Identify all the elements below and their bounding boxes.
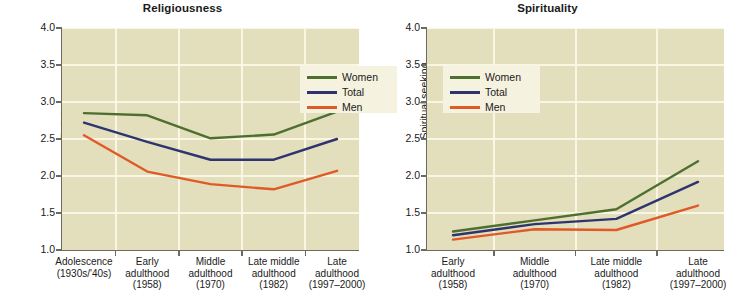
y-axis-tick xyxy=(421,175,427,176)
series-lines xyxy=(62,28,359,250)
y-axis-tick xyxy=(56,175,62,176)
y-axis-tick-label: 2.5 xyxy=(389,132,420,144)
legend-label-total: Total xyxy=(485,87,507,98)
legend-swatch-men xyxy=(450,106,480,109)
legend-item-men: Men xyxy=(450,102,505,113)
y-axis-tick-label: 1.0 xyxy=(389,243,420,255)
legend-item-women: Women xyxy=(450,72,521,83)
y-axis-tick xyxy=(56,64,62,65)
figure-two-panel-line-charts: Religiousness Religiousness 1.01.52.02.5… xyxy=(0,0,730,293)
y-axis-tick-label: 1.5 xyxy=(24,206,55,218)
y-axis-tick-label: 3.5 xyxy=(24,58,55,70)
legend-label-women: Women xyxy=(485,72,521,83)
y-axis-tick xyxy=(56,249,62,250)
legend-swatch-men xyxy=(307,106,337,109)
x-axis-tick-label-line: adulthood xyxy=(643,268,730,280)
y-axis-tick-label: 1.5 xyxy=(389,206,420,218)
legend-label-men: Men xyxy=(485,102,505,113)
y-axis-tick-label: 4.0 xyxy=(389,21,420,33)
chart-title-spirituality: Spirituality xyxy=(365,2,730,14)
y-axis-tick xyxy=(56,138,62,139)
y-axis-tick-label: 1.0 xyxy=(24,243,55,255)
y-axis-tick xyxy=(56,212,62,213)
y-axis-tick-label: 2.5 xyxy=(24,132,55,144)
chart-legend: WomenTotalMen xyxy=(443,66,540,113)
chart-panel-religiousness: Religiousness Religiousness 1.01.52.02.5… xyxy=(0,0,365,293)
plot-area-religiousness xyxy=(62,28,359,250)
plot-area-spirituality xyxy=(427,28,724,250)
x-axis-tick-label: Lateadulthood(1997–2000) xyxy=(643,256,730,291)
x-axis-tick-label-line: (1997–2000) xyxy=(643,279,730,291)
y-axis-tick xyxy=(56,101,62,102)
y-axis-tick-label: 4.0 xyxy=(24,21,55,33)
y-axis-tick xyxy=(421,138,427,139)
y-axis-tick-label: 3.0 xyxy=(389,95,420,107)
legend-swatch-total xyxy=(450,91,480,94)
chart-panel-spirituality: Spirituality Spiritual seeking 1.01.52.0… xyxy=(365,0,730,293)
legend-swatch-total xyxy=(307,91,337,94)
y-axis-tick xyxy=(421,27,427,28)
y-axis-tick-label: 2.0 xyxy=(389,169,420,181)
legend-item-total: Total xyxy=(307,87,364,98)
legend-item-men: Men xyxy=(307,102,362,113)
y-axis-tick xyxy=(421,249,427,250)
y-axis-tick-label: 3.5 xyxy=(389,58,420,70)
y-axis-tick xyxy=(421,64,427,65)
plot-background-religiousness xyxy=(62,28,359,250)
legend-swatch-women xyxy=(307,76,337,79)
legend-swatch-women xyxy=(450,76,480,79)
legend-item-total: Total xyxy=(450,87,507,98)
y-axis-tick xyxy=(421,212,427,213)
x-axis-line xyxy=(61,250,359,251)
x-axis-tick-label-line: Late xyxy=(643,256,730,268)
series-line-total xyxy=(84,123,337,160)
series-lines xyxy=(427,28,724,250)
legend-label-total: Total xyxy=(342,87,364,98)
y-axis-tick xyxy=(56,27,62,28)
y-axis-tick xyxy=(421,101,427,102)
series-line-men xyxy=(84,135,337,189)
legend-label-men: Men xyxy=(342,102,362,113)
y-axis-tick-label: 2.0 xyxy=(24,169,55,181)
y-axis-tick-label: 3.0 xyxy=(24,95,55,107)
plot-background-spirituality xyxy=(427,28,724,250)
chart-title-religiousness: Religiousness xyxy=(0,2,365,14)
